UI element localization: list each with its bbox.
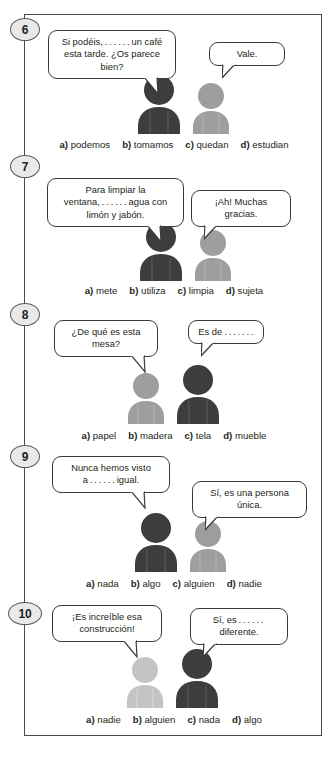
answer-option[interactable]: a) nadie (86, 714, 121, 725)
option-letter: c) (187, 714, 196, 725)
option-letter: a) (86, 578, 95, 589)
option-letter: c) (185, 430, 194, 441)
option-word: algo (142, 578, 160, 589)
option-word: tela (196, 430, 211, 441)
speech-bubble-text: Para limpiar la ventana, . . . . . . agu… (64, 184, 167, 220)
bubble-tail-icon (144, 77, 162, 97)
speech-bubble-right-8: Es de . . . . . . . (188, 320, 264, 344)
answer-option[interactable]: d) algo (232, 714, 262, 725)
answer-option[interactable]: b) alguien (133, 714, 176, 725)
answer-option[interactable]: a) papel (82, 430, 117, 441)
speech-bubble-text: Es de . . . . . . . (198, 326, 253, 337)
option-word: quedan (197, 139, 229, 150)
option-word: madera (140, 430, 173, 441)
answer-options-10: a) nadie b) alguien c) nada d) algo (25, 714, 323, 725)
speech-bubble-left-7: Para limpiar la ventana, . . . . . . agu… (47, 178, 184, 227)
option-letter: c) (185, 139, 194, 150)
speech-bubble-right-6: Vale. (209, 42, 285, 66)
item-number-badge-6: 6 (10, 18, 40, 41)
option-letter: a) (59, 139, 68, 150)
speech-bubble-right-7: ¡Ah! Muchas gracias. (191, 190, 291, 227)
item-number-badge-8: 8 (10, 303, 40, 326)
speech-bubble-text: ¡Es increíble esa construcción! (72, 611, 142, 634)
option-word: podemos (71, 139, 110, 150)
person-figure-light (190, 82, 232, 134)
option-word: alguien (145, 714, 176, 725)
answer-options-6: a) podemos b) tomamos c) quedan d) estud… (25, 139, 323, 150)
person-figure-dark (173, 364, 223, 424)
option-letter: d) (227, 578, 236, 589)
person-figure-light (125, 372, 167, 424)
speech-bubble-text: Nunca hemos visto a . . . . . . igual. (71, 462, 151, 485)
answer-option[interactable]: d) sujeta (226, 285, 263, 296)
option-letter: b) (129, 285, 138, 296)
option-word: sujeta (238, 285, 264, 296)
option-word: nadie (238, 578, 261, 589)
option-letter: d) (232, 714, 241, 725)
speech-bubble-left-6: Si podéis, . . . . . . un café esta tard… (48, 30, 176, 79)
option-word: nadie (97, 714, 120, 725)
item-number-badge-7: 7 (10, 155, 40, 178)
speech-bubble-text: Si podéis, . . . . . . un café esta tard… (62, 36, 163, 72)
speech-bubble-right-9: Sí, es una persona única. (192, 481, 307, 518)
bubble-tail-icon (123, 640, 141, 660)
bubble-tail-icon (147, 225, 165, 245)
bubble-tail-icon (131, 491, 149, 511)
option-letter: a) (86, 714, 95, 725)
speech-bubble-text: Sí, es una persona única. (210, 487, 289, 510)
answer-options-9: a) nada b) algo c) alguien d) nadie (25, 578, 323, 589)
speech-bubble-left-9: Nunca hemos visto a . . . . . . igual. (52, 456, 170, 493)
option-word: limpia (189, 285, 214, 296)
speech-bubble-left-10: ¡Es increíble esa construcción! (52, 605, 162, 642)
option-word: estudian (252, 139, 288, 150)
bubble-tail-icon (201, 342, 219, 362)
speech-bubble-text: ¡Ah! Muchas gracias. (215, 196, 268, 219)
option-letter: a) (82, 430, 91, 441)
option-word: nada (97, 578, 118, 589)
answer-option[interactable]: d) mueble (223, 430, 266, 441)
option-letter: b) (131, 578, 140, 589)
option-word: alguien (184, 578, 215, 589)
option-letter: b) (133, 714, 142, 725)
answer-option[interactable]: d) nadie (227, 578, 262, 589)
answer-option[interactable]: d) estudian (241, 139, 289, 150)
answer-option[interactable]: b) tomamos (122, 139, 173, 150)
option-letter: c) (173, 578, 182, 589)
speech-bubble-text: ¿De qué es esta mesa? (72, 326, 141, 349)
item-number-badge-10: 10 (8, 602, 42, 625)
option-letter: d) (226, 285, 235, 296)
answer-option[interactable]: b) madera (128, 430, 172, 441)
answer-option[interactable]: a) podemos (59, 139, 110, 150)
speech-bubble-text: Sí, es . . . . . . diferente. (213, 614, 266, 637)
answer-options-7: a) mete b) utiliza c) limpia d) sujeta (25, 285, 323, 296)
option-word: papel (93, 430, 116, 441)
bubble-tail-icon (205, 516, 223, 536)
answer-option[interactable]: c) tela (185, 430, 212, 441)
speech-bubble-text: Vale. (237, 48, 258, 59)
speech-bubble-right-10: Sí, es . . . . . . diferente. (190, 608, 288, 645)
answer-option[interactable]: c) nada (187, 714, 220, 725)
option-letter: d) (241, 139, 250, 150)
answer-option[interactable]: a) mete (85, 285, 118, 296)
bubble-tail-icon (203, 643, 221, 663)
option-word: algo (244, 714, 262, 725)
option-word: mete (96, 285, 117, 296)
answer-option[interactable]: b) algo (131, 578, 161, 589)
option-letter: c) (178, 285, 187, 296)
bubble-tail-icon (222, 64, 240, 84)
answer-option[interactable]: b) utiliza (129, 285, 165, 296)
option-letter: d) (223, 430, 232, 441)
answer-option[interactable]: c) quedan (185, 139, 228, 150)
answer-option[interactable]: c) alguien (173, 578, 215, 589)
option-word: utiliza (141, 285, 166, 296)
option-word: mueble (235, 430, 266, 441)
answer-options-8: a) papel b) madera c) tela d) mueble (25, 430, 323, 441)
answer-option[interactable]: c) limpia (178, 285, 214, 296)
option-letter: a) (85, 285, 94, 296)
bubble-tail-icon (131, 355, 149, 375)
option-word: nada (199, 714, 220, 725)
person-figure-dark (131, 512, 181, 572)
person-figure-light (124, 656, 166, 708)
option-word: tomamos (134, 139, 173, 150)
answer-option[interactable]: a) nada (86, 578, 119, 589)
